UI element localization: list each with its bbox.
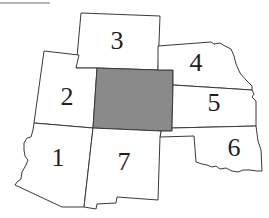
region-label-7: 7 bbox=[118, 147, 131, 176]
region-label-4: 4 bbox=[190, 48, 203, 77]
region-label-3: 3 bbox=[111, 26, 124, 55]
region-highlighted-center[interactable] bbox=[93, 68, 173, 131]
region-label-2: 2 bbox=[61, 82, 74, 111]
region-6[interactable] bbox=[160, 126, 262, 172]
region-label-6: 6 bbox=[228, 133, 241, 162]
region-label-1: 1 bbox=[52, 143, 65, 172]
region-map: 3 2 4 5 6 1 7 bbox=[0, 0, 269, 218]
region-label-5: 5 bbox=[208, 88, 221, 117]
